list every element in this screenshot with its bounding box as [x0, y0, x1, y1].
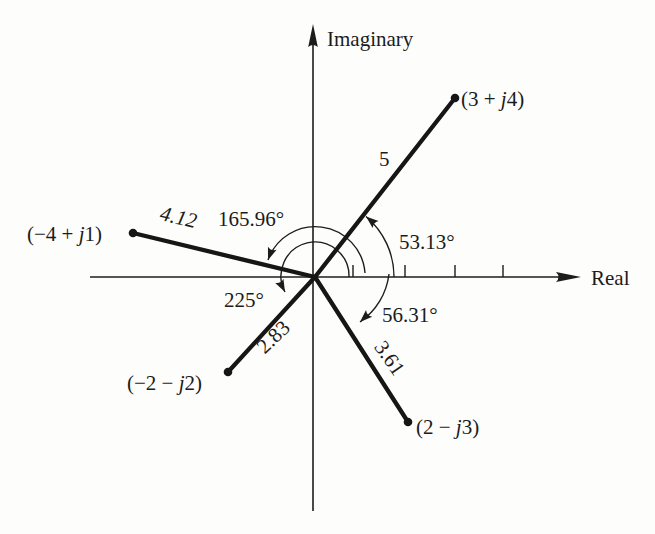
magnitude-label-5: 5	[379, 147, 390, 171]
real-axis-label: Real	[591, 266, 630, 290]
label-2-minus-j3-pre: (2 −	[416, 415, 456, 439]
angle-label-165-96: 165.96°	[218, 207, 284, 231]
diagram-canvas: Imaginary Real	[0, 0, 655, 534]
angle-arc-165-96-arrow-icon	[264, 247, 277, 262]
angle-arc-56-31-arrow-icon	[357, 310, 372, 325]
point-minus4-plus-j1	[129, 229, 138, 238]
magnitude-label-2-83: 2.83	[252, 316, 295, 359]
magnitude-label-4-12: 4.12	[158, 201, 200, 233]
label-3-plus-j4: (3 + j4)	[461, 87, 524, 111]
point-minus2-minus-j2	[224, 368, 233, 377]
point-labels: (3 + j4) (−4 + j1) (−2 − j2) (2 − j3)	[27, 87, 524, 439]
label-3-plus-j4-pre: (3 +	[461, 87, 501, 111]
label-minus4-plus-j1: (−4 + j1)	[27, 222, 102, 246]
label-2-minus-j3-post: 3)	[462, 415, 480, 439]
real-axis-arrow-icon	[556, 272, 581, 282]
label-minus4-plus-j1-post: 1)	[85, 222, 103, 246]
imaginary-axis-arrow-icon	[308, 24, 318, 47]
angle-arc-225-arrow-icon	[275, 279, 289, 294]
angle-label-225: 225°	[224, 288, 264, 312]
argand-diagram-figure: Imaginary Real	[0, 0, 655, 534]
label-2-minus-j3: (2 − j3)	[416, 415, 479, 439]
real-axis-ticks	[353, 265, 503, 277]
label-minus4-plus-j1-pre: (−4 +	[27, 222, 79, 246]
angle-label-56-31: 56.31°	[382, 303, 438, 327]
imaginary-axis-label: Imaginary	[327, 27, 414, 51]
label-minus2-minus-j2-post: 2)	[185, 371, 203, 395]
axes: Imaginary Real	[90, 24, 630, 511]
label-minus2-minus-j2-pre: (−2 −	[127, 371, 179, 395]
point-3-plus-j4	[451, 94, 460, 103]
label-3-plus-j4-post: 4)	[507, 87, 525, 111]
point-2-minus-j3	[404, 418, 413, 427]
angle-label-53-13: 53.13°	[399, 230, 455, 254]
label-minus2-minus-j2: (−2 − j2)	[127, 371, 202, 395]
angle-arc-53-13	[366, 217, 394, 278]
